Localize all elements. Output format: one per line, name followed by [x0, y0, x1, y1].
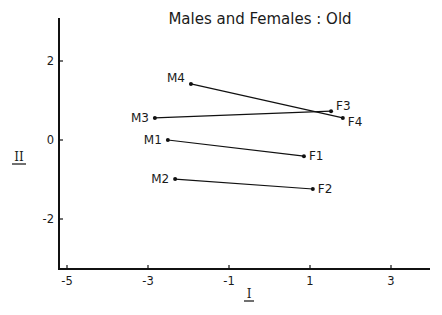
point-label-F4: F4 — [348, 115, 363, 129]
point-M4 — [189, 82, 193, 86]
point-F3 — [329, 109, 333, 113]
point-M2 — [173, 177, 177, 181]
point-M1 — [166, 138, 170, 142]
x-axis-label-text: I — [247, 287, 252, 301]
point-label-M1: M1 — [144, 133, 162, 147]
point-F4 — [341, 116, 345, 120]
y-tick-label: 0 — [47, 133, 54, 147]
x-tick-label: -3 — [142, 274, 153, 288]
point-label-M2: M2 — [151, 172, 169, 186]
x-tick-label: -5 — [61, 274, 72, 288]
chart: Males and Females : Old -5-3-113 20-2 M1… — [0, 0, 442, 315]
point-label-M4: M4 — [167, 71, 185, 85]
point-label-M3: M3 — [131, 111, 149, 125]
point-M3 — [153, 116, 157, 120]
point-label-F1: F1 — [309, 149, 324, 163]
x-tick-label: 3 — [387, 274, 394, 288]
segment-M4-F4 — [191, 84, 343, 118]
point-label-F2: F2 — [318, 182, 333, 196]
y-axis-label-text: II — [14, 150, 24, 164]
segment-M1-F1 — [168, 140, 304, 156]
y-tick-label: 2 — [47, 54, 54, 68]
x-axis-label: I — [244, 287, 254, 301]
x-tick-label: 1 — [306, 274, 313, 288]
segment-M3-F3 — [155, 111, 331, 118]
point-F1 — [302, 154, 306, 158]
point-F2 — [311, 187, 315, 191]
chart-title: Males and Females : Old — [168, 10, 351, 28]
point-label-F3: F3 — [336, 99, 351, 113]
segment-M2-F2 — [175, 179, 313, 189]
segments — [155, 84, 343, 189]
x-tick-label: -1 — [223, 274, 234, 288]
y-tick-label: -2 — [43, 212, 54, 226]
y-axis-label: II — [12, 150, 26, 164]
points: M1M2M3M4F1F2F3F4 — [131, 71, 362, 196]
